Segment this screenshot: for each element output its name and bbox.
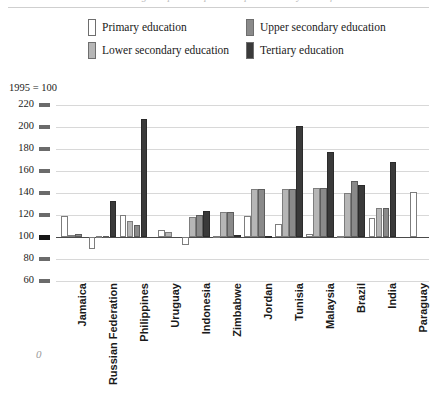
bar-primary-brazil xyxy=(337,236,344,238)
bar-upper-russian-federation xyxy=(103,236,110,238)
bar-tertiary-brazil xyxy=(358,185,365,237)
bar-primary-malaysia xyxy=(306,234,313,237)
legend-label-tertiary: Tertiary education xyxy=(260,45,344,57)
bar-upper-jamaica xyxy=(75,234,82,237)
bar-primary-jamaica xyxy=(61,216,68,237)
x-tick-label-paraguay: Paraguay xyxy=(418,283,429,333)
bar-primary-tunisia xyxy=(275,224,282,237)
y-tick-label-160: 160 xyxy=(18,165,34,176)
legend-swatch-lower-secondary-icon xyxy=(88,42,96,59)
axis-origin-marker: 0 xyxy=(36,348,42,360)
bar-lower-zimbabwe xyxy=(220,212,227,237)
bar-group-brazil xyxy=(336,105,367,281)
x-tick-label-jamaica: Jamaica xyxy=(77,283,88,326)
x-tick-label-philippines: Philippines xyxy=(139,283,150,342)
bar-group-jordan xyxy=(243,105,274,281)
y-tick-mark-160 xyxy=(39,169,50,173)
legend-item-primary: Primary education xyxy=(88,19,187,36)
y-tick-mark-60 xyxy=(39,279,50,283)
bar-tertiary-tunisia xyxy=(296,126,303,237)
bar-lower-jordan xyxy=(251,189,258,237)
bar-lower-philippines xyxy=(127,221,134,238)
legend-item-tertiary: Tertiary education xyxy=(246,42,344,59)
bar-lower-india xyxy=(376,208,383,237)
x-tick-label-malaysia: Malaysia xyxy=(325,283,336,329)
x-tick-label-brazil: Brazil xyxy=(356,283,367,313)
legend-item-lower-secondary: Lower secondary education xyxy=(88,42,229,59)
bar-group-uruguay xyxy=(149,105,180,281)
legend-swatch-upper-secondary-icon xyxy=(246,19,254,36)
legend-item-upper-secondary: Upper secondary education xyxy=(246,19,386,36)
bar-tertiary-zimbabwe xyxy=(234,235,241,237)
bar-group-indonesia xyxy=(180,105,211,281)
y-tick-mark-200 xyxy=(39,125,50,129)
y-tick-mark-100 xyxy=(39,235,50,240)
plot-area xyxy=(56,105,429,281)
y-tick-label-100: 100 xyxy=(18,231,34,242)
y-tick-mark-180 xyxy=(39,147,50,151)
bar-primary-indonesia xyxy=(182,237,189,245)
bar-tertiary-jordan xyxy=(265,236,272,238)
bar-primary-russian-federation xyxy=(89,237,96,249)
y-axis-note: 1995 = 100 xyxy=(9,82,57,93)
legend-swatch-tertiary-icon xyxy=(246,42,254,59)
bar-upper-brazil xyxy=(351,181,358,237)
bar-group-paraguay xyxy=(398,105,429,281)
bar-lower-jamaica xyxy=(68,235,75,237)
bar-tertiary-india xyxy=(390,162,397,237)
bar-lower-russian-federation xyxy=(96,236,103,238)
bar-upper-philippines xyxy=(134,225,141,237)
bar-lower-tunisia xyxy=(282,189,289,237)
bar-upper-indonesia xyxy=(196,215,203,237)
bar-primary-india xyxy=(369,218,376,237)
x-tick-label-india: India xyxy=(387,283,398,309)
y-tick-label-220: 220 xyxy=(18,99,34,110)
y-tick-label-60: 60 xyxy=(24,275,35,286)
legend-label-upper-secondary: Upper secondary education xyxy=(260,22,386,34)
x-axis: JamaicaRussian FederationPhilippinesUrug… xyxy=(56,283,429,393)
bar-primary-philippines xyxy=(120,215,127,237)
x-tick-label-tunisia: Tunisia xyxy=(294,283,305,321)
chart-root: Changes in public expenditure per studen… xyxy=(0,0,437,393)
page-title: Changes in public expenditure per studen… xyxy=(120,0,375,2)
x-tick-label-indonesia: Indonesia xyxy=(201,283,212,334)
bar-primary-jordan xyxy=(244,216,251,237)
y-tick-label-120: 120 xyxy=(18,209,34,220)
x-tick-label-uruguay: Uruguay xyxy=(170,283,181,328)
y-tick-mark-80 xyxy=(39,257,50,261)
x-tick-label-russian-federation: Russian Federation xyxy=(108,283,119,385)
bar-upper-india xyxy=(383,208,390,237)
x-tick-label-zimbabwe: Zimbabwe xyxy=(232,283,243,337)
bar-group-malaysia xyxy=(305,105,336,281)
bar-upper-malaysia xyxy=(320,188,327,238)
y-tick-label-140: 140 xyxy=(18,187,34,198)
bar-group-india xyxy=(367,105,398,281)
y-tick-label-180: 180 xyxy=(18,143,34,154)
y-tick-mark-220 xyxy=(39,103,50,107)
title-divider xyxy=(8,7,429,8)
bar-group-zimbabwe xyxy=(211,105,242,281)
y-tick-label-200: 200 xyxy=(18,121,34,132)
legend-label-primary: Primary education xyxy=(102,22,187,34)
x-tick-label-jordan: Jordan xyxy=(263,283,274,320)
bar-upper-zimbabwe xyxy=(227,212,234,237)
bar-tertiary-philippines xyxy=(141,119,148,237)
bar-primary-uruguay xyxy=(158,230,165,237)
gridline-60 xyxy=(56,281,429,282)
bar-primary-paraguay xyxy=(410,192,417,237)
y-tick-label-80: 80 xyxy=(24,253,35,264)
bar-tertiary-indonesia xyxy=(203,211,210,237)
legend-label-lower-secondary: Lower secondary education xyxy=(102,45,229,57)
y-axis: 6080100120140160180200220 xyxy=(0,105,52,285)
bar-lower-indonesia xyxy=(189,217,196,237)
bar-lower-brazil xyxy=(344,193,351,237)
bar-lower-uruguay xyxy=(165,232,172,238)
bar-group-philippines xyxy=(118,105,149,281)
bar-group-tunisia xyxy=(274,105,305,281)
chart-legend: Primary education Lower secondary educat… xyxy=(0,18,437,64)
y-tick-mark-120 xyxy=(39,213,50,217)
bar-group-russian-federation xyxy=(87,105,118,281)
bar-tertiary-malaysia xyxy=(327,152,334,237)
bar-upper-jordan xyxy=(258,189,265,237)
bar-primary-zimbabwe xyxy=(213,236,220,238)
